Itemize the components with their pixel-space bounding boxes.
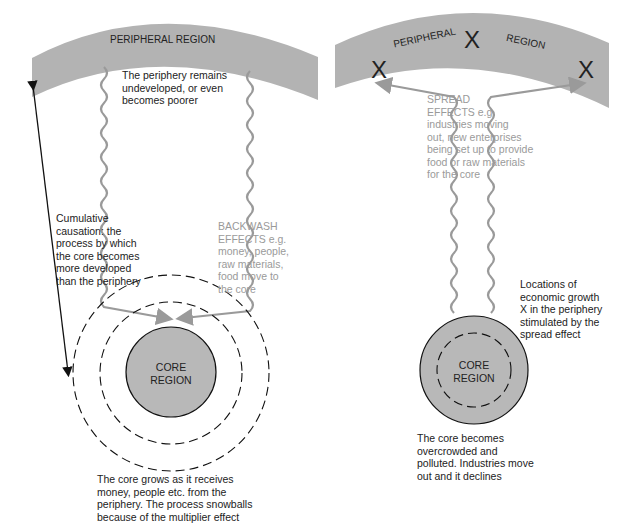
caption-line: periphery. The process snowballs [97, 498, 252, 511]
backwash-line: BACKWASH [218, 220, 289, 233]
growth-line: economic growth [520, 291, 602, 304]
backwash-line: the core [218, 283, 289, 296]
caption-line: out and it declines [417, 470, 534, 483]
right-core-caption: The core becomes overcrowded and pollute… [417, 432, 534, 482]
left-core-label: CORE REGION [141, 361, 201, 386]
spread-line: SPREAD [427, 93, 533, 106]
periphery-note-line: undeveloped, or even [122, 82, 227, 95]
caption-line: because of the multiplier effect [97, 511, 252, 524]
cumulative-causation-label: Cumulative causation: the process by whi… [56, 212, 141, 287]
cc-line: the core becomes [56, 250, 141, 263]
growth-marker-x: X [464, 28, 480, 52]
periphery-note-line: becomes poorer [122, 94, 227, 107]
cc-line: more developed [56, 262, 141, 275]
spread-line: EFFECTS e.g. [427, 106, 533, 119]
growth-line: X in the periphery [520, 303, 602, 316]
spread-effects-label: SPREAD EFFECTS e.g. industries moving ou… [427, 93, 533, 181]
core-label-line: CORE [444, 359, 504, 372]
growth-line: stimulated by the [520, 316, 602, 329]
caption-line: overcrowded and [417, 445, 534, 458]
spread-line: industries moving [427, 118, 533, 131]
core-label-line: REGION [141, 374, 201, 387]
growth-marker-x: X [371, 58, 387, 82]
left-core-caption: The core grows as it receives money, peo… [97, 473, 252, 523]
cc-line: causation: the [56, 225, 141, 238]
caption-line: money, people etc. from the [97, 486, 252, 499]
right-core-label: CORE REGION [444, 359, 504, 384]
growth-marker-x: X [578, 58, 594, 82]
growth-line: Locations of [520, 278, 602, 291]
caption-line: The core becomes [417, 432, 534, 445]
spread-line: being set up to provide [427, 143, 533, 156]
spread-line: food or raw materials [427, 156, 533, 169]
core-label-line: REGION [444, 372, 504, 385]
growth-line: spread effect [520, 328, 602, 341]
backwash-line: money, people, [218, 245, 289, 258]
cc-line: process by which [56, 237, 141, 250]
periphery-note-line: The periphery remains [122, 69, 227, 82]
backwash-line: food move to [218, 270, 289, 283]
caption-line: The core grows as it receives [97, 473, 252, 486]
left-band-label: PERIPHERAL REGION [110, 34, 215, 47]
backwash-line: EFFECTS e.g. [218, 233, 289, 246]
backwash-effects-label: BACKWASH EFFECTS e.g. money, people, raw… [218, 220, 289, 295]
cc-line: Cumulative [56, 212, 141, 225]
periphery-note: The periphery remains undeveloped, or ev… [122, 69, 227, 107]
core-label-line: CORE [141, 361, 201, 374]
spread-line: for the core [427, 168, 533, 181]
spread-line: out, new enterprises [427, 131, 533, 144]
cc-line: than the periphery [56, 275, 141, 288]
backwash-line: raw materials, [218, 258, 289, 271]
growth-locations-label: Locations of economic growth X in the pe… [520, 278, 602, 341]
caption-line: polluted. Industries move [417, 457, 534, 470]
